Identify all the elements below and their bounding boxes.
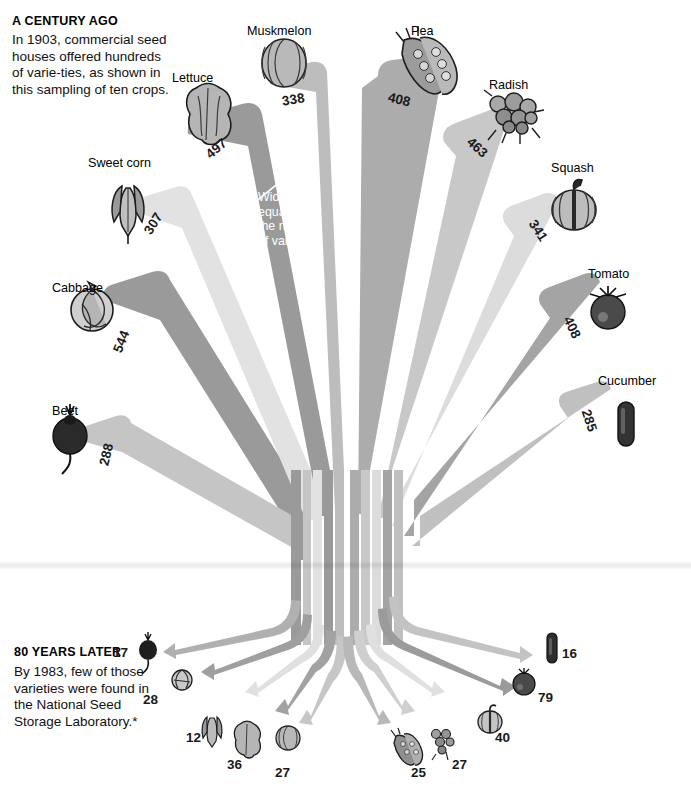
value-1983-radish: 27: [452, 757, 467, 772]
cabbage-icon-small: [172, 670, 192, 690]
later-heading: 80 YEARS LATER: [14, 645, 164, 659]
corn-icon: [112, 186, 144, 244]
muskmelon-icon-small: [276, 726, 300, 750]
later-body: By 1983, few of those varieties were fou…: [14, 664, 164, 730]
value-1983-lettuce: 36: [227, 757, 242, 772]
value-1983-pea: 25: [411, 765, 426, 780]
crop-label-lettuce: Lettuce: [172, 71, 213, 85]
crop-label-cabbage: Cabbage: [52, 281, 103, 295]
width-annotation-line-3: the number: [258, 219, 344, 234]
width-annotation-line-1: Width: [258, 190, 344, 205]
intro-heading: A CENTURY AGO: [12, 14, 172, 28]
squash-icon: [552, 179, 596, 230]
width-annotation-line-4: of varieties: [258, 234, 344, 249]
value-1983-beet: 17: [113, 645, 128, 660]
value-1983-sweetcorn: 12: [186, 730, 201, 745]
corn-icon-small: [202, 717, 222, 747]
value-1983-squash: 40: [495, 730, 510, 745]
value-1983-cabbage: 28: [143, 692, 158, 707]
width-annotation-line-2: equals: [258, 205, 344, 220]
intro-body: In 1903, commercial seed houses offered …: [12, 32, 172, 98]
tomato-icon-small: [513, 668, 535, 695]
crop-label-cucumber: Cucumber: [598, 374, 656, 388]
value-1983-muskmelon: 27: [275, 765, 290, 780]
crop-label-tomato: Tomato: [588, 267, 629, 281]
intro-text-block: A CENTURY AGO In 1903, commercial seed h…: [12, 14, 172, 98]
crop-label-sweetcorn: Sweet corn: [88, 156, 151, 170]
outflow-arrows-right: [343, 596, 533, 725]
crop-label-pea: Pea: [411, 24, 433, 38]
cucumber-icon: [618, 402, 634, 446]
ground-line: [0, 561, 691, 570]
radish-icon-small: [432, 730, 455, 761]
lettuce-icon: [187, 84, 231, 145]
value-1983-tomato: 79: [538, 690, 553, 705]
crop-label-squash: Squash: [551, 161, 594, 175]
cucumber-icon-small: [547, 633, 557, 663]
lettuce-icon-small: [234, 721, 260, 758]
value-1983-cucumber: 16: [562, 646, 577, 661]
pea-icon-small: [391, 728, 423, 765]
crop-label-radish: Radish: [489, 78, 528, 92]
squash-icon-small: [478, 705, 502, 733]
width-annotation: Width equals the number of varieties: [258, 190, 344, 248]
muskmelon-icon: [262, 39, 306, 87]
infographic-canvas: A CENTURY AGO In 1903, commercial seed h…: [0, 0, 691, 803]
crop-label-muskmelon: Muskmelon: [247, 24, 311, 38]
crop-label-beet: Beet: [52, 404, 78, 418]
tomato-icon: [590, 286, 626, 329]
band-cucumber: [412, 381, 611, 546]
later-text-block: 80 YEARS LATER By 1983, few of those var…: [14, 645, 164, 730]
